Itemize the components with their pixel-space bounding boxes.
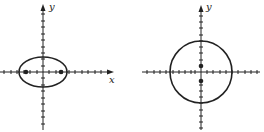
y-axis-arrow-icon (41, 4, 46, 11)
point-lower (199, 79, 204, 84)
circle-graph: y (132, 0, 264, 132)
y-axis-label: y (48, 1, 55, 12)
circle-graph-svg: y (132, 0, 264, 132)
focus-point-left (24, 70, 29, 75)
ellipse-graph-svg: y x (0, 0, 132, 132)
x-axis-label: x (109, 74, 115, 85)
y-axis-label: y (205, 1, 212, 12)
y-axis-arrow-icon (199, 5, 204, 12)
point-upper (199, 64, 204, 69)
ellipse-graph: y x (0, 0, 132, 132)
focus-point-right (59, 70, 64, 75)
